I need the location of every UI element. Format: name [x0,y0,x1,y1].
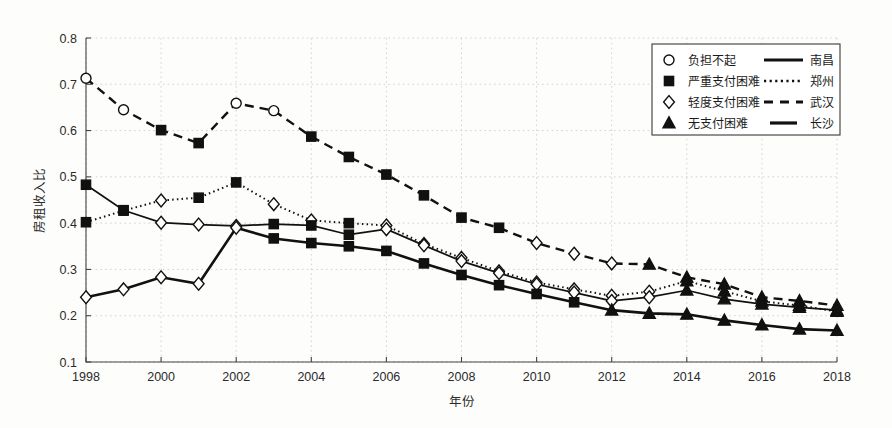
marker-square [269,219,278,228]
x-tick-label: 2014 [673,370,701,384]
marker-square [532,289,541,298]
marker-square [570,298,579,307]
marker-square [344,219,353,228]
legend-marker-label: 严重支付困难 [688,75,760,89]
x-tick-label: 2004 [297,370,325,384]
legend-series-label: 郑州 [810,74,834,89]
x-tick-label: 1998 [72,370,100,384]
marker-diamond [156,271,167,284]
marker-square [81,218,90,227]
marker-square [307,221,316,230]
x-tick-label: 2010 [523,370,551,384]
y-tick-label: 0.8 [60,32,77,46]
marker-square [307,132,316,141]
y-tick-label: 0.5 [60,170,77,184]
marker-square [344,230,353,239]
legend-marker-label: 无支付困难 [688,117,748,131]
y-tick-label: 0.3 [60,263,77,277]
y-tick-label: 0.2 [60,309,77,323]
marker-diamond [156,194,167,207]
marker-square [307,238,316,247]
x-tick-label: 2018 [823,370,851,384]
marker-circle [81,73,91,83]
marker-square [157,126,166,135]
marker-diamond [118,283,129,296]
marker-square [382,246,391,255]
y-tick-label: 0.6 [60,124,77,138]
marker-circle [664,55,674,65]
marker-square [344,242,353,251]
marker-diamond [419,239,430,252]
x-tick-label: 2008 [448,370,476,384]
marker-circle [231,98,241,108]
marker-circle [119,105,129,115]
marker-diamond [606,257,617,270]
marker-diamond [569,247,580,260]
marker-square [664,76,673,85]
marker-square [457,213,466,222]
legend-marker-label: 负担不起 [688,54,736,68]
marker-square [194,193,203,202]
series-长沙 [81,221,843,335]
marker-square [344,152,353,161]
chart-container: 0.10.20.30.40.50.60.70.81998200020022004… [0,0,892,428]
legend-series-label: 南昌 [810,53,834,68]
marker-square [382,170,391,179]
series-郑州 [81,178,843,317]
x-tick-label: 2002 [222,370,250,384]
legend-series-label: 长沙 [810,117,834,131]
marker-diamond [156,216,167,229]
legend-marker-label: 轻度支付困难 [688,95,760,110]
x-tick-label: 2006 [372,370,400,384]
x-tick-label: 2016 [748,370,776,384]
marker-diamond [193,218,204,231]
marker-square [119,206,128,215]
marker-square [81,180,90,189]
marker-square [419,259,428,268]
marker-square [194,138,203,147]
x-tick-label: 2000 [147,370,175,384]
marker-diamond [268,198,279,211]
x-axis-title: 年份 [449,394,475,409]
y-tick-label: 0.4 [60,217,77,231]
marker-square [457,270,466,279]
marker-circle [269,106,279,116]
marker-diamond [81,291,92,304]
marker-square [232,178,241,187]
x-tick-label: 2012 [598,370,626,384]
marker-square [419,191,428,200]
marker-square [494,223,503,232]
marker-square [269,234,278,243]
marker-diamond [531,237,542,250]
rent-income-ratio-line-chart: 0.10.20.30.40.50.60.70.81998200020022004… [0,0,892,428]
chart-legend: 负担不起严重支付困难轻度支付困难无支付困难南昌郑州武汉长沙 [652,44,840,135]
y-tick-label: 0.7 [60,78,77,92]
legend-series-label: 武汉 [810,96,834,110]
y-axis-title: 房租收入比 [32,168,47,233]
marker-square [494,281,503,290]
y-tick-label: 0.1 [60,356,77,370]
